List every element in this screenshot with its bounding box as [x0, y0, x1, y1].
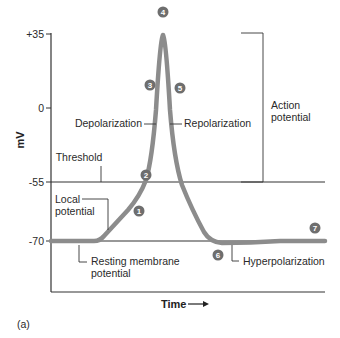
- threshold-label: Threshold: [56, 151, 103, 163]
- action-potential-label: potential: [271, 111, 311, 123]
- action-potential-label: Action: [271, 99, 300, 111]
- svg-text:5: 5: [178, 84, 183, 93]
- y-axis-label: mV: [14, 131, 26, 149]
- y-tick-label: -70: [29, 235, 44, 247]
- marker-6: 6: [213, 250, 224, 261]
- hyperpolarization-leader: [232, 245, 239, 261]
- resting-label: Resting membrane: [91, 255, 180, 267]
- marker-5: 5: [175, 83, 186, 94]
- marker-3: 3: [145, 80, 156, 91]
- y-tick-label: 0: [38, 102, 44, 114]
- x-axis-label: Time: [161, 298, 186, 310]
- marker-1: 1: [134, 206, 145, 217]
- panel-label: (a): [17, 318, 30, 330]
- time-arrowhead-icon: [203, 301, 209, 307]
- action-potential-diagram: +35 0 -55 -70 mV Threshold Local potenti…: [0, 0, 340, 338]
- svg-text:6: 6: [216, 251, 221, 260]
- repolarization-label: Repolarization: [184, 117, 251, 129]
- action-potential-bracket: [241, 33, 263, 182]
- local-potential-label: Local: [55, 193, 80, 205]
- hyperpolarization-label: Hyperpolarization: [243, 255, 325, 267]
- y-tick-label: +35: [26, 28, 44, 40]
- svg-text:4: 4: [161, 8, 166, 17]
- svg-text:2: 2: [144, 171, 149, 180]
- marker-2: 2: [141, 170, 152, 181]
- marker-4: 4: [158, 7, 169, 18]
- local-potential-label: potential: [55, 205, 95, 217]
- svg-text:3: 3: [148, 81, 153, 90]
- y-tick-label: -55: [29, 176, 44, 188]
- svg-text:1: 1: [137, 207, 142, 216]
- resting-leader: [79, 245, 87, 262]
- depolarization-label: Depolarization: [75, 117, 142, 129]
- resting-label: potential: [91, 267, 131, 279]
- marker-7: 7: [310, 223, 321, 234]
- svg-text:7: 7: [313, 224, 318, 233]
